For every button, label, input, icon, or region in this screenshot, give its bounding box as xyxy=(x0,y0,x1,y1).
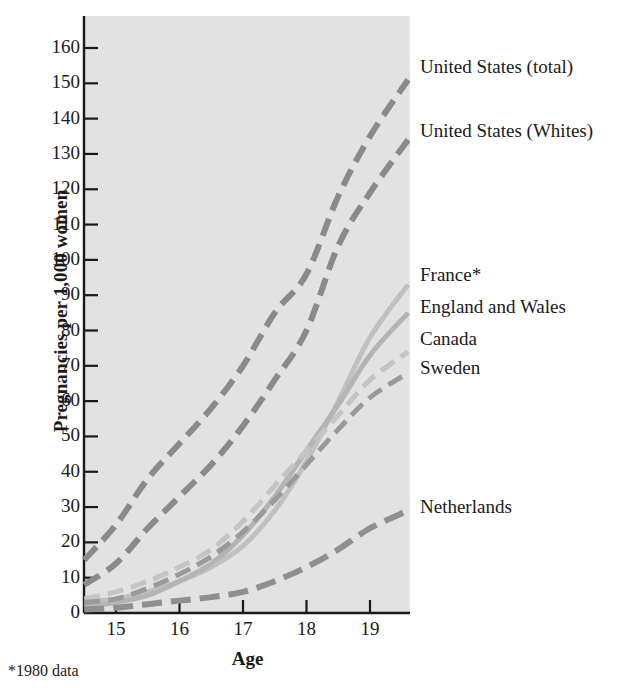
plot-background xyxy=(84,16,410,613)
pregnancy-rate-line-chart: Pregnancies per 1,000 women 160150140130… xyxy=(0,0,629,688)
plot-area xyxy=(0,0,629,688)
